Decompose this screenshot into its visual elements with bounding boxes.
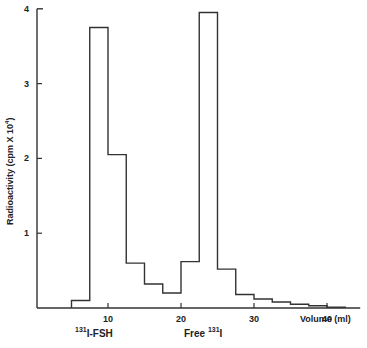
annotation-free-iodine: Free 131I [184,326,223,339]
y-axis-label-close: ) [5,118,15,121]
y-tick-label: 2 [24,153,29,163]
histogram-steps [72,13,346,308]
y-tick-label: 3 [24,79,29,89]
y-tick-label: 1 [24,228,29,238]
y-tick-label: 4 [24,4,29,14]
x-axis-label: Volume (ml) [300,314,351,324]
annotation-free-suffix: I [220,328,223,339]
x-tick-label: 30 [249,314,259,324]
x-tick-label: 20 [176,314,186,324]
annotation-free-sup: 131 [208,326,220,333]
y-axis-label: Radioactivity (cpm X 104) [4,118,15,225]
annotation-fsh-text: I-FSH [87,328,113,339]
histogram-chart: 123410203040 Volume (ml) 131I-FSH Free 1… [0,0,367,348]
annotation-fsh-sup: 131 [75,326,87,333]
annotation-fsh: 131I-FSH [75,326,113,339]
annotation-free-text: Free [184,328,208,339]
ticks: 123410203040 [24,4,332,324]
x-tick-label: 10 [103,314,113,324]
y-axis-label-main: Radioactivity (cpm X 10 [5,124,15,225]
